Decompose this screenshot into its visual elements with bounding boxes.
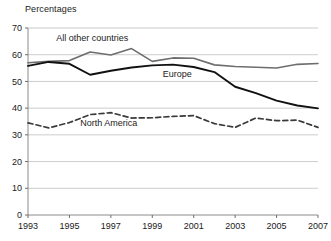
series-label-all-other-countries: All other countries — [56, 33, 129, 43]
x-tick-label-2005: 2005 — [267, 221, 287, 231]
y-tick-label-40: 40 — [12, 103, 22, 113]
series-label-europe: Europe — [163, 69, 192, 79]
y-tick-label-0: 0 — [17, 210, 22, 220]
y-tick-label-10: 10 — [12, 183, 22, 193]
y-axis-ticks: 010203040506070 — [12, 23, 28, 220]
chart-container: Percentages 010203040506070 199319951997… — [0, 0, 331, 241]
y-tick-label-20: 20 — [12, 157, 22, 167]
gridlines-group — [28, 28, 318, 188]
x-tick-label-2003: 2003 — [225, 221, 245, 231]
series-paths-group — [28, 49, 318, 128]
series-label-north-america: North America — [80, 118, 137, 128]
line-chart: 010203040506070 199319951997199920012003… — [0, 0, 331, 241]
y-tick-label-30: 30 — [12, 130, 22, 140]
y-tick-label-70: 70 — [12, 23, 22, 33]
x-tick-label-1993: 1993 — [18, 221, 38, 231]
x-tick-label-1999: 1999 — [142, 221, 162, 231]
x-tick-label-1997: 1997 — [101, 221, 121, 231]
y-tick-label-50: 50 — [12, 77, 22, 87]
x-tick-label-2001: 2001 — [184, 221, 204, 231]
x-tick-label-2007: 2007 — [308, 221, 328, 231]
series-line-north-america — [28, 113, 318, 128]
y-tick-label-60: 60 — [12, 50, 22, 60]
x-axis-ticks: 19931995199719992001200320052007 — [18, 215, 328, 231]
x-tick-label-1995: 1995 — [59, 221, 79, 231]
series-labels-group: All other countriesEuropeNorth America — [56, 33, 191, 128]
